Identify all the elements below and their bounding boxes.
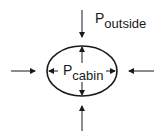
label-p-cabin-main: P xyxy=(63,62,72,78)
label-p-outside: Poutside xyxy=(95,11,146,30)
label-p-cabin: Pcabin xyxy=(62,63,104,82)
pressure-diagram: Poutside Pcabin xyxy=(0,0,161,138)
label-p-outside-sub: outside xyxy=(104,16,146,31)
label-p-outside-main: P xyxy=(95,10,104,26)
label-p-cabin-sub: cabin xyxy=(72,68,103,83)
